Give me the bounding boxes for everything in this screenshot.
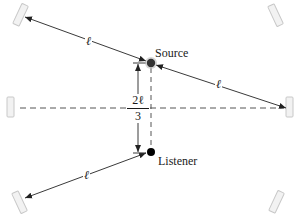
vertical-distance-label: 2ℓ 3 xyxy=(127,94,149,123)
length-label-bottom-left: ℓ xyxy=(83,169,90,181)
length-label-top-right: ℓ xyxy=(215,78,222,90)
reflector-top-right xyxy=(268,4,284,27)
fraction-numerator: 2ℓ xyxy=(127,94,149,109)
reflector-right xyxy=(286,97,293,117)
diagram-canvas: Source Listener ℓ ℓ ℓ 2ℓ 3 xyxy=(0,0,296,224)
listener-label: Listener xyxy=(158,154,197,169)
listener-icon xyxy=(147,148,155,156)
reflector-left xyxy=(7,97,14,117)
reflector-top-left xyxy=(13,3,29,26)
reflector-bottom-right xyxy=(269,190,285,213)
length-label-top-left: ℓ xyxy=(85,35,92,47)
source-label: Source xyxy=(155,46,188,61)
fraction-denominator: 3 xyxy=(127,109,149,123)
reflector-bottom-left xyxy=(12,191,28,214)
